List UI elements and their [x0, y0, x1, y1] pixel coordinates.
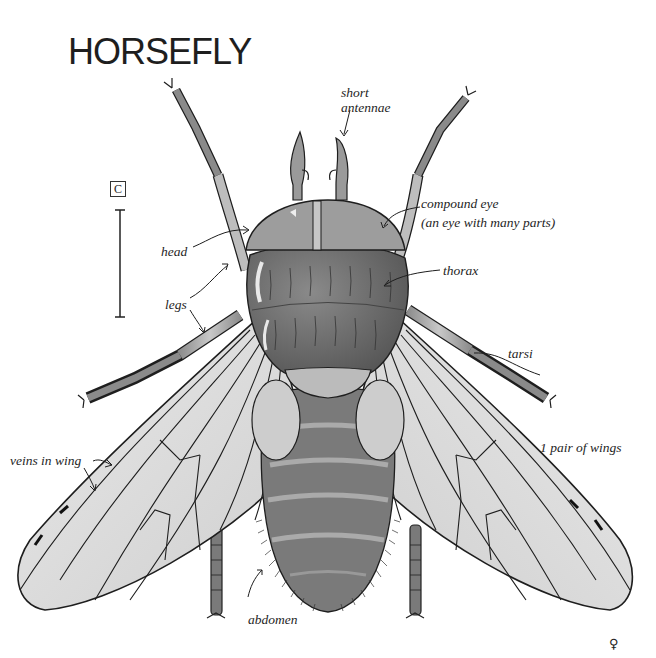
label-wings: 1 pair of wings — [540, 440, 621, 455]
label-head: head — [161, 244, 187, 259]
label-short-antennae-line2: antennae — [341, 100, 391, 115]
short-antennae — [291, 132, 348, 200]
label-abdomen: abdomen — [248, 612, 298, 627]
label-compound-eye-line1: compound eye — [421, 196, 555, 211]
scale-marker: C — [110, 181, 126, 197]
left-calypter — [252, 380, 300, 460]
label-veins-in-wing: veins in wing — [10, 453, 81, 468]
head — [246, 200, 405, 250]
horsefly-illustration — [0, 0, 656, 658]
label-short-antennae: short antennae — [341, 85, 391, 115]
label-thorax: thorax — [443, 263, 478, 278]
label-legs: legs — [165, 297, 187, 312]
label-short-antennae-line1: short — [341, 85, 391, 100]
scale-bar — [115, 210, 125, 317]
female-symbol-icon: ♀ — [609, 636, 619, 651]
label-compound-eye-line2: (an eye with many parts) — [421, 215, 555, 230]
label-compound-eye: compound eye (an eye with many parts) — [421, 196, 555, 230]
right-calypter — [356, 380, 404, 460]
diagram-title: HORSEFLY — [68, 34, 251, 70]
horsefly-diagram: HORSEFLY C short antennae compound eye (… — [0, 0, 656, 658]
label-tarsi: tarsi — [508, 346, 533, 361]
